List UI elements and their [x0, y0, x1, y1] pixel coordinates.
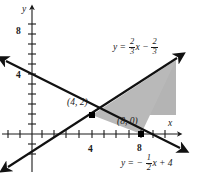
coordinate-graph: y x 8 4 4 8 (4, 2) (8, 0) y = 2 3 x − 2 …	[0, 0, 212, 175]
equation-lower-sign: −	[136, 158, 142, 168]
point-label-x-intercept: (8, 0)	[117, 116, 138, 127]
equation-upper-equals: =	[120, 42, 126, 52]
equation-upper-variable: x	[136, 42, 140, 52]
point-marker-4-2	[89, 112, 95, 118]
point-marker-8-0	[138, 131, 144, 137]
equation-lower-constant: 4	[168, 158, 173, 168]
equation-label-upper: y = 2 3 x − 2 3	[113, 38, 158, 56]
equation-lower-variable: x	[152, 158, 156, 168]
equation-upper-constant-fraction: 2 3	[151, 38, 157, 56]
equation-lower-equals: =	[128, 158, 134, 168]
x-axis-label: x	[167, 118, 173, 128]
equation-upper-operator: −	[142, 42, 148, 52]
equation-lower-coef-denominator: 2	[146, 163, 152, 173]
y-tick-label-8: 8	[16, 26, 21, 36]
equation-lower-coefficient-fraction: 1 2	[146, 154, 152, 172]
equation-lower-operator: +	[159, 158, 165, 168]
equation-upper-coefficient-fraction: 2 3	[129, 38, 135, 56]
equation-upper-lhs: y	[113, 42, 117, 52]
y-axis-label: y	[21, 4, 27, 14]
point-label-intersection: (4, 2)	[67, 97, 88, 108]
equation-lower-lhs: y	[121, 158, 125, 168]
x-tick-label-4: 4	[88, 144, 93, 154]
equation-label-lower: y = − 1 2 x + 4	[121, 154, 173, 172]
equation-upper-coef-denominator: 3	[129, 47, 135, 57]
x-tick-label-8: 8	[137, 143, 142, 153]
shaded-solution-region-upper	[92, 60, 176, 115]
equation-upper-const-numerator: 2	[151, 38, 157, 47]
equation-lower-coef-numerator: 1	[146, 154, 152, 163]
graph-svg: y x 8 4 4 8 (4, 2) (8, 0)	[0, 0, 212, 175]
y-tick-label-4: 4	[16, 70, 21, 80]
equation-upper-coef-numerator: 2	[129, 38, 135, 47]
equation-upper-const-denominator: 3	[151, 47, 157, 57]
